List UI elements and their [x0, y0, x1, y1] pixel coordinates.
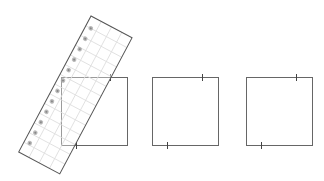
square-outline [247, 78, 313, 146]
square-3 [247, 74, 313, 149]
diagram-canvas [0, 0, 324, 181]
ruler[interactable] [19, 16, 132, 174]
square-2 [153, 74, 219, 149]
square-outline [153, 78, 219, 146]
